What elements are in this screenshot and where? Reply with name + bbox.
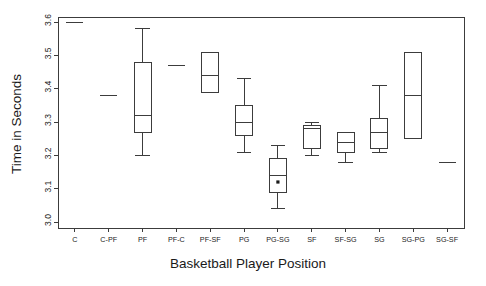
box-rect bbox=[134, 62, 151, 132]
x-tick-label: PG bbox=[239, 235, 250, 244]
box-pg-sg bbox=[269, 145, 286, 208]
boxplot-figure: 3.03.13.23.33.43.53.6 CC-PFPFPF-CPF-SFPG… bbox=[0, 0, 486, 286]
x-tick-label: SF-SG bbox=[335, 235, 357, 244]
plot-frame bbox=[58, 17, 464, 228]
y-tick-label: 3.6 bbox=[43, 14, 53, 26]
x-axis-tick-labels: CC-PFPFPF-CPF-SFPGPG-SGSFSF-SGSGSG-PGSG-… bbox=[72, 235, 458, 244]
y-tick-label: 3.3 bbox=[43, 114, 53, 126]
x-tick-label: SF bbox=[307, 235, 317, 244]
x-axis-title: Basketball Player Position bbox=[170, 256, 326, 271]
box-series bbox=[66, 22, 455, 209]
boxplot-canvas: 3.03.13.23.33.43.53.6 CC-PFPFPF-CPF-SFPG… bbox=[0, 0, 486, 286]
y-tick-label: 3.5 bbox=[43, 47, 53, 59]
x-tick-label: SG bbox=[374, 235, 385, 244]
box-pg bbox=[236, 79, 253, 152]
plot-border bbox=[58, 17, 464, 228]
x-tick-label: PF-SF bbox=[200, 235, 221, 244]
y-axis-tick-labels: 3.03.13.23.33.43.53.6 bbox=[43, 14, 53, 226]
box-sf bbox=[303, 122, 320, 155]
box-sf-sg bbox=[337, 132, 354, 162]
box-rect bbox=[371, 119, 388, 149]
y-tick-label: 3.1 bbox=[43, 180, 53, 192]
outlier-point bbox=[276, 180, 279, 183]
y-axis-title: Time in Seconds bbox=[9, 74, 24, 174]
y-tick-label: 3.2 bbox=[43, 147, 53, 159]
y-tick-label: 3.0 bbox=[43, 214, 53, 226]
x-tick-label: PF-C bbox=[168, 235, 185, 244]
box-sg bbox=[371, 85, 388, 152]
x-tick-label: C-PF bbox=[100, 235, 117, 244]
box-pf-sf bbox=[202, 52, 219, 92]
y-axis-ticks bbox=[54, 22, 58, 222]
x-tick-label: PF bbox=[138, 235, 148, 244]
x-axis-ticks bbox=[75, 228, 447, 232]
y-tick-label: 3.4 bbox=[43, 80, 53, 92]
box-pf bbox=[134, 29, 151, 156]
box-rect bbox=[236, 105, 253, 135]
x-tick-label: PG-SG bbox=[266, 235, 290, 244]
box-sg-pg bbox=[405, 52, 422, 139]
x-tick-label: SG-PG bbox=[402, 235, 426, 244]
x-tick-label: SG-SF bbox=[436, 235, 459, 244]
box-rect bbox=[202, 52, 219, 92]
x-tick-label: C bbox=[72, 235, 77, 244]
